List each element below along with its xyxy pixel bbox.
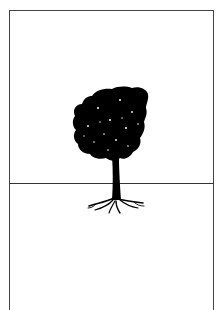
tree-roots (88, 198, 144, 213)
tree-canopy (73, 87, 148, 161)
